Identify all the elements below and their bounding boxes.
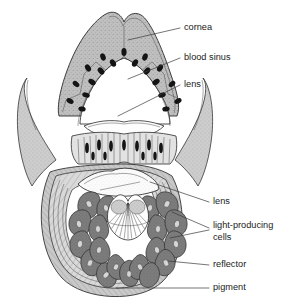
label-lens-upper: lens (184, 79, 201, 89)
wing-left (17, 78, 56, 186)
wing-right (175, 78, 213, 186)
figure-root: cornea blood sinus lens lens light-produ… (0, 0, 295, 307)
label-blood-sinus: blood sinus (184, 52, 231, 62)
label-cornea: cornea (184, 22, 213, 32)
label-pigment: pigment (213, 282, 246, 292)
photophore-diagram: cornea blood sinus lens lens light-produ… (0, 0, 295, 307)
label-lens-lower: lens (213, 196, 230, 206)
label-light-producing-cells-line2: cells (213, 232, 232, 242)
label-reflector: reflector (213, 259, 246, 269)
label-light-producing-cells-line1: light-producing (213, 220, 273, 230)
